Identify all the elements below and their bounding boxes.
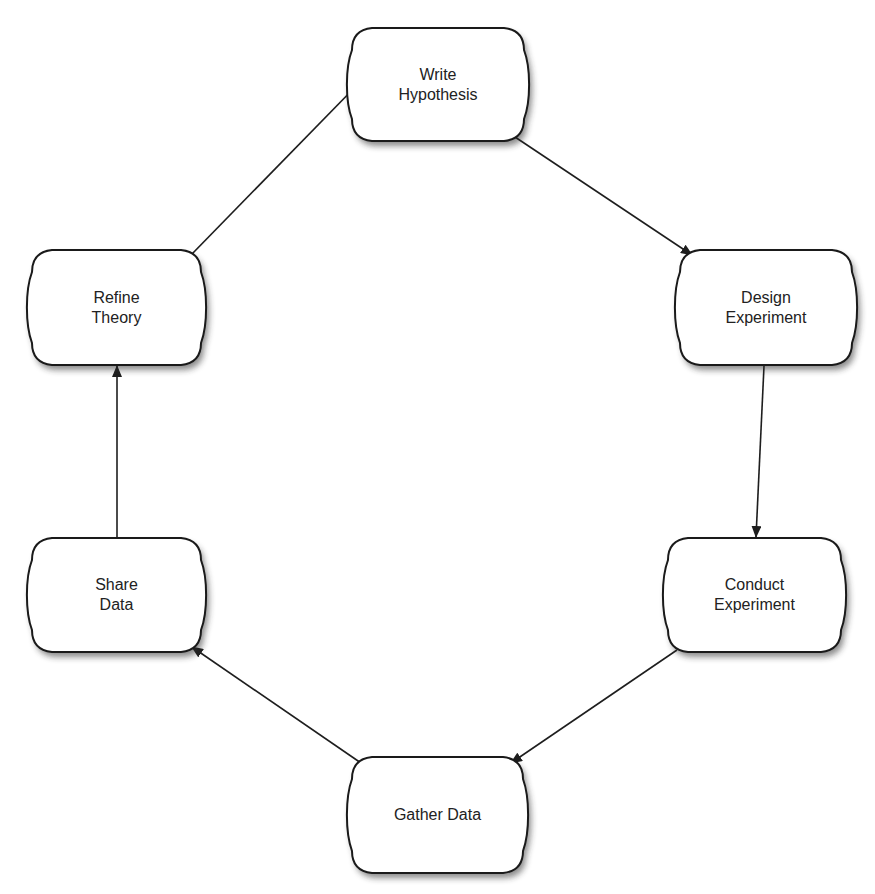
node-shape-refine-theory: [27, 250, 206, 365]
nodes-layer: [27, 28, 857, 873]
node-shape-write-hypothesis: [347, 28, 529, 141]
arrow-refine-theory-to-write-hypothesis: [190, 80, 362, 256]
arrow-gather-data-to-share-data: [192, 647, 361, 763]
node-shadows-layer: [30, 33, 860, 878]
arrow-write-hypothesis-to-design-experiment: [515, 137, 692, 255]
node-shape-design-experiment: [675, 250, 857, 365]
arrow-design-experiment-to-conduct-experiment: [756, 366, 764, 537]
arrow-conduct-experiment-to-gather-data: [511, 650, 677, 763]
edges-layer: [117, 80, 764, 763]
node-shape-share-data: [27, 538, 206, 652]
cycle-diagram: [0, 0, 875, 894]
node-shape-gather-data: [347, 757, 528, 873]
node-shape-conduct-experiment: [663, 538, 846, 652]
